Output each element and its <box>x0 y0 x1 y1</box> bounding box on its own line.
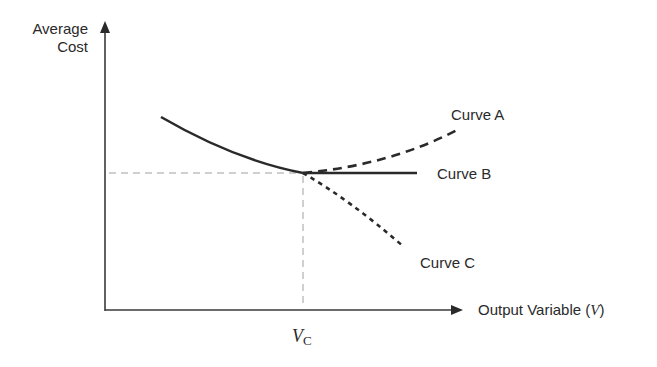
x-axis-label: Output Variable (V) <box>478 302 604 318</box>
vc-variable: V <box>292 326 303 346</box>
curve-b-label: Curve B <box>437 166 491 181</box>
critical-output-marker-label: VC <box>292 326 312 349</box>
y-axis-label-line-2: Cost <box>32 38 88 56</box>
curve-a-label: Curve A <box>451 107 504 122</box>
curve-a-line <box>303 130 457 173</box>
x-axis-label-suffix: ) <box>599 301 604 318</box>
x-axis-arrow-icon <box>451 305 463 315</box>
vc-subscript: C <box>303 333 312 348</box>
y-axis-label-line-1: Average <box>32 20 88 38</box>
x-axis-label-prefix: Output Variable ( <box>478 301 590 318</box>
curve-c-label: Curve C <box>420 255 475 270</box>
curve-c-line <box>303 173 404 247</box>
y-axis-label: Average Cost <box>32 20 88 56</box>
declining-cost-curve <box>161 117 303 173</box>
y-axis-arrow-icon <box>100 21 110 33</box>
